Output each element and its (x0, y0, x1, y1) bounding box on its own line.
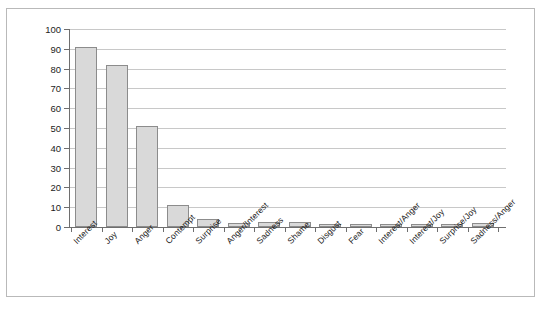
bar (136, 126, 158, 227)
x-axis-tick (407, 228, 408, 232)
x-axis-category-label: Fear (347, 227, 366, 246)
x-axis-line (69, 227, 506, 228)
bar (106, 65, 128, 227)
y-axis-tick-label: 30 (9, 164, 61, 174)
y-axis-tick-label-holder: 80 (7, 69, 61, 70)
y-axis-tick-label-holder: 10 (7, 207, 61, 208)
y-axis-tick-label: 90 (9, 45, 61, 55)
bar (350, 224, 372, 227)
y-axis-tick-label-holder: 30 (7, 168, 61, 169)
x-axis-tick (254, 228, 255, 232)
x-axis-category-label: Joy (103, 230, 119, 246)
gridline (69, 69, 506, 70)
gridline (69, 148, 506, 149)
gridline (69, 49, 506, 50)
x-axis-tick (193, 228, 194, 232)
y-axis-tick-label-holder: 90 (7, 49, 61, 50)
gridline (69, 168, 506, 169)
x-axis-tick (346, 228, 347, 232)
x-axis-tick (71, 228, 72, 232)
y-axis-tick-label: 60 (9, 104, 61, 114)
y-axis-tick-label: 10 (9, 203, 61, 213)
chart-frame: 0102030405060708090100 InterestJoyAngerC… (6, 8, 535, 297)
gridline (69, 187, 506, 188)
x-axis-category-label: Sadness/Anger (469, 197, 517, 245)
y-axis-tick-label: 20 (9, 183, 61, 193)
bar (75, 47, 97, 227)
gridline (69, 88, 506, 89)
y-axis-line (69, 29, 70, 228)
x-axis-tick (315, 228, 316, 232)
y-axis-tick-label: 70 (9, 84, 61, 94)
gridline (69, 128, 506, 129)
x-axis-tick (102, 228, 103, 232)
x-axis-tick (285, 228, 286, 232)
x-axis-tick (376, 228, 377, 232)
y-axis-tick-label-holder: 70 (7, 88, 61, 89)
y-axis-tick-label-holder: 40 (7, 148, 61, 149)
y-axis-tick-label-holder: 20 (7, 187, 61, 188)
x-axis-tick (163, 228, 164, 232)
y-axis-tick-label-holder: 0 (7, 227, 61, 228)
y-axis-tick-label-holder: 50 (7, 128, 61, 129)
x-axis-tick (132, 228, 133, 232)
x-axis-category-label: Disgust (316, 219, 343, 246)
x-axis-tick (224, 228, 225, 232)
gridline (69, 108, 506, 109)
x-axis-tick (498, 228, 499, 232)
x-axis-tick (437, 228, 438, 232)
y-axis-tick-label: 40 (9, 144, 61, 154)
x-axis-tick (468, 228, 469, 232)
y-axis-tick-label: 100 (9, 25, 61, 35)
y-axis-tick-label: 80 (9, 65, 61, 75)
gridline (69, 29, 506, 30)
y-axis-tick-label-holder: 100 (7, 29, 61, 30)
y-axis-tick-label: 50 (9, 124, 61, 134)
y-axis-tick-label-holder: 60 (7, 108, 61, 109)
y-axis-tick-label: 0 (9, 223, 61, 233)
x-axis-category-label: Sadness (255, 216, 285, 246)
plot-area: 0102030405060708090100 InterestJoyAngerC… (7, 9, 536, 298)
